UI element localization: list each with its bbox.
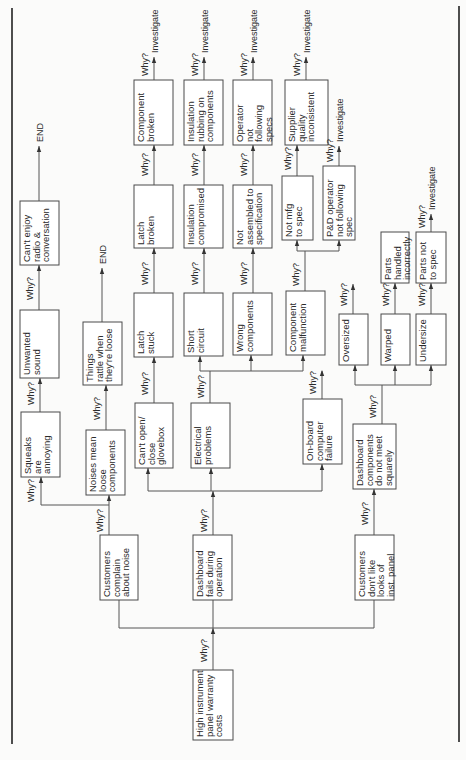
why-label: Why? (140, 53, 150, 76)
node-label-line: operation (213, 557, 224, 597)
why-label: Why? (339, 283, 349, 306)
node-label-line: failure (323, 435, 334, 461)
why-label: Why? (199, 509, 209, 532)
not-assembled-box: Notassembled tospecification (233, 185, 272, 248)
why-label: Why? (190, 53, 200, 76)
customers-complain-noise-box: Customerscomplainabout noise (100, 535, 138, 600)
arrowhead-icon (38, 378, 42, 384)
why-label: Why? (368, 395, 378, 418)
node-label-line: conversation (40, 208, 51, 262)
why-label: Why? (292, 53, 302, 76)
not-mfg-to-spec-box: Not mfgto spec (282, 176, 313, 240)
node-label-line: Undersize (417, 319, 428, 362)
node-label-line: broken (145, 113, 156, 142)
node-label-line: inconsistent (305, 91, 316, 142)
why-label: Why? (95, 509, 105, 532)
investigate-terminal: Investigate (335, 98, 345, 142)
arrowhead-icon (107, 495, 111, 501)
node-label-line: circuit (195, 328, 206, 353)
why-label: Why? (239, 53, 249, 76)
node-label-line: incorrectly (401, 236, 412, 280)
node-label-line: costs (213, 715, 224, 737)
arrowhead-icon (351, 284, 355, 290)
node-label-line: components (106, 440, 117, 492)
parts-handled-incorrectly-box: Partshandledincorrectly (381, 232, 412, 283)
arrowhead-icon (353, 365, 357, 371)
node-label-line: compromised (195, 188, 206, 245)
arrowhead-icon (37, 146, 41, 152)
wrong-components-box: Wrongcomponents (233, 293, 272, 355)
arrowhead-icon (100, 268, 104, 274)
why-label: Why? (25, 277, 35, 300)
node-label-line: squarely (383, 450, 394, 486)
node-label-line: stuck (145, 332, 156, 354)
why-label: Why? (26, 479, 36, 502)
arrowhead-icon (202, 57, 206, 63)
node-label-line: inst. panel (385, 554, 396, 597)
dashboard-fails-box: Dashboardfails duringoperation (193, 535, 232, 600)
squeaks-annoying-box: Squeaksareannoying (21, 412, 60, 477)
node-label-line: annoying (41, 435, 52, 474)
why-label: Why? (140, 372, 150, 395)
arrowhead-icon (429, 365, 433, 371)
node-label-line: about noise (120, 548, 131, 597)
arrowhead-icon (104, 385, 108, 391)
arrowhead-icon (152, 57, 156, 63)
arrowhead-icon (249, 355, 253, 361)
component-malfunction-box: Componentmalfunction (286, 291, 325, 355)
why-label: Why? (239, 153, 249, 176)
arrowhead-icon (320, 464, 324, 470)
arrowhead-icon (39, 477, 43, 483)
warped-box: Warped (381, 314, 410, 365)
arrowhead-icon (295, 145, 299, 151)
arrowhead-icon (152, 357, 156, 363)
things-rattle-box: Thingsrattle whenthey're loose (83, 322, 122, 385)
customers-dislike-looks-box: Customersdon't likelooks ofinst. panel (355, 535, 396, 600)
why-label: Why? (381, 283, 391, 306)
investigate-terminal: Investigate (249, 9, 259, 53)
arrowhead-icon (304, 57, 308, 63)
arrowhead-icon (209, 468, 213, 474)
investigate-terminal: Investigate (200, 9, 210, 53)
arrowhead-icon (429, 283, 433, 289)
investigate-terminal: Investigate (302, 9, 312, 53)
arrowhead-icon (337, 146, 341, 152)
arrowhead-icon (301, 355, 305, 361)
arrowhead-icon (320, 370, 324, 376)
noises-loose-components-box: Noises meanloosecomponents (86, 430, 125, 495)
root-problem-box: High instrumentpanel warrantycosts (193, 670, 233, 740)
arrowhead-icon (202, 248, 206, 254)
end-terminal: END (35, 122, 45, 142)
why-label: Why? (291, 263, 301, 286)
oversized-box: Oversized (339, 314, 368, 365)
cant-enjoy-radio-box: Can't enjoyradio &conversation (20, 201, 59, 265)
components-not-square-box: Dashboardcomponentsdo not meetsquarely (353, 424, 396, 489)
arrowhead-icon (251, 145, 255, 151)
why-label: Why? (196, 375, 206, 398)
latch-broken-box: Latchbroken (134, 185, 173, 248)
node-label-line: broken (145, 216, 156, 245)
arrowhead-icon (251, 248, 255, 254)
parts-not-to-spec-box: Parts notto spec (416, 232, 446, 283)
why-label: Why? (239, 262, 249, 285)
why-label: Why? (283, 147, 293, 170)
arrowhead-icon (372, 489, 376, 495)
node-label-line: components (244, 300, 255, 352)
node-label-line: components (204, 90, 215, 142)
why-label: Why? (190, 262, 200, 285)
why-label: Why? (140, 153, 150, 176)
node-label-line: to spec (427, 249, 438, 280)
arrowhead-icon (211, 628, 215, 634)
investigate-terminal: Investigate (427, 166, 437, 210)
pd-operator-box: P&D operatornot followingspec (323, 166, 355, 240)
five-whys-diagram: High instrumentpanel warrantycostsCustom… (0, 0, 466, 760)
arrowhead-icon (251, 57, 255, 63)
node-label-line: glovebox (155, 427, 166, 465)
why-label: Why? (140, 262, 150, 285)
insulation-compromised-box: Insulationcompromised (184, 185, 223, 248)
arrowhead-icon (337, 240, 341, 246)
node-label-line: spec (343, 217, 354, 237)
arrowhead-icon (202, 145, 206, 151)
short-circuit-box: Shortcircuit (184, 293, 223, 356)
arrowhead-icon (152, 248, 156, 254)
